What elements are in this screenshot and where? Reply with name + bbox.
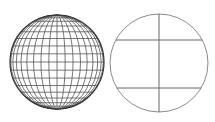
divided-circle — [110, 14, 208, 112]
diagram-canvas — [0, 0, 215, 122]
wireframe-globe — [10, 15, 104, 109]
